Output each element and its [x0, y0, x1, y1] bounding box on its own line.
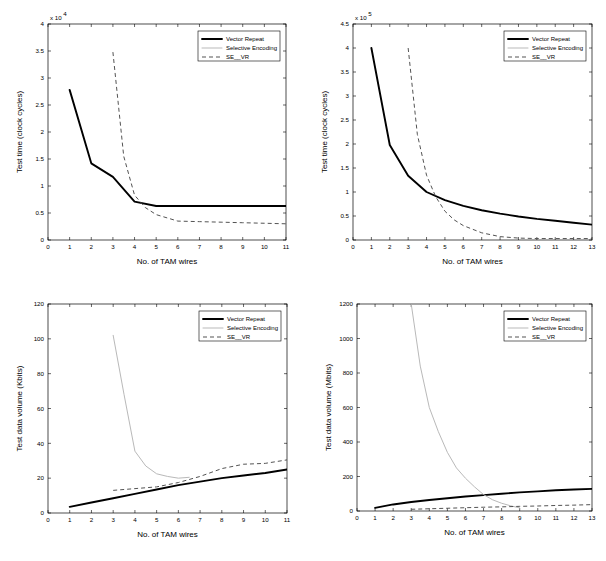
legend-label-se-vr: SE__VR [226, 54, 250, 60]
chart-svg-top-right: 01234567891011121300.511.522.533.544.5x … [303, 0, 606, 280]
y-tick-label: 0 [346, 236, 350, 243]
x-tick-label: 4 [133, 516, 137, 523]
y-tick-label: 1.5 [35, 155, 44, 162]
chart-panel-bottom-left: 01234567891011020406080100120No. of TAM … [0, 281, 303, 561]
x-tick-label: 8 [500, 514, 504, 521]
x-tick-label: 2 [391, 514, 395, 521]
x-tick-label: 6 [462, 243, 466, 250]
x-tick-label: 11 [553, 514, 560, 521]
x-tick-label: 3 [111, 243, 115, 250]
x-tick-label: 7 [198, 516, 202, 523]
y-tick-label: 4 [346, 44, 350, 51]
legend: Vector RepeatSelective EncodingSE__VR [504, 311, 586, 341]
x-axis-label: No. of TAM wires [137, 530, 198, 539]
y-tick-label: 400 [343, 438, 354, 445]
y-tick-label: 120 [34, 300, 45, 307]
chart-svg-top-left: 0123456789101100.511.522.533.54x 104No. … [0, 0, 303, 280]
y-tick-label: 4.5 [340, 20, 349, 27]
x-tick-label: 9 [242, 516, 246, 523]
x-tick-label: 12 [570, 243, 577, 250]
y-tick-label: 2.5 [340, 116, 349, 123]
x-tick-label: 4 [425, 243, 429, 250]
y-tick-label: 0.5 [35, 209, 44, 216]
x-tick-label: 2 [388, 243, 392, 250]
x-axis-label: No. of TAM wires [137, 257, 198, 266]
legend-label-selective-encoding: Selective Encoding [532, 45, 583, 51]
x-tick-label: 3 [406, 243, 410, 250]
chart-svg-bottom-left: 01234567891011020406080100120No. of TAM … [0, 281, 303, 561]
y-axis-label: Test data volume (Kbits) [15, 365, 24, 451]
x-tick-label: 5 [155, 516, 159, 523]
x-tick-label: 7 [480, 243, 484, 250]
x-tick-label: 8 [220, 516, 224, 523]
x-tick-label: 2 [90, 243, 94, 250]
y-tick-label: 600 [343, 404, 354, 411]
y-tick-label: 100 [34, 335, 45, 342]
x-axis-label: No. of TAM wires [442, 257, 503, 266]
y-tick-label: 3.5 [35, 47, 44, 54]
y-tick-label: 1 [346, 188, 350, 195]
y-tick-label: 800 [343, 369, 354, 376]
x-tick-label: 5 [446, 514, 450, 521]
y-axis-label: Test data volume (Mbits) [324, 364, 333, 451]
x-tick-label: 13 [589, 243, 596, 250]
x-tick-label: 8 [219, 243, 223, 250]
y-tick-label: 1.5 [340, 164, 349, 171]
legend: Vector RepeatSelective EncodingSE__VR [199, 311, 281, 341]
x-tick-label: 4 [133, 243, 137, 250]
x-tick-label: 0 [46, 516, 50, 523]
legend-label-se-vr: SE__VR [532, 334, 556, 340]
x-tick-label: 10 [534, 514, 541, 521]
y-tick-label: 0 [350, 507, 354, 514]
x-tick-label: 0 [46, 243, 50, 250]
y-tick-label: 3 [41, 74, 45, 81]
x-tick-label: 1 [68, 243, 72, 250]
x-tick-label: 10 [533, 243, 540, 250]
x-tick-label: 9 [518, 514, 522, 521]
x-tick-label: 0 [355, 514, 359, 521]
y-tick-label: 2 [41, 128, 45, 135]
y-tick-label: 200 [343, 473, 354, 480]
y-tick-label: 2.5 [35, 101, 44, 108]
x-tick-label: 7 [482, 514, 486, 521]
y-tick-label: 4 [41, 20, 45, 27]
x-tick-label: 3 [410, 514, 414, 521]
chart-panel-top-right: 01234567891011121300.511.522.533.544.5x … [303, 0, 606, 280]
y-tick-label: 1000 [339, 335, 353, 342]
x-tick-label: 9 [241, 243, 245, 250]
svg-text:x 10: x 10 [50, 14, 62, 21]
legend-label-se-vr: SE__VR [532, 54, 556, 60]
x-tick-label: 1 [370, 243, 374, 250]
legend-label-selective-encoding: Selective Encoding [227, 325, 278, 331]
chart-panel-bottom-right: 012345678910111213020040060080010001200N… [303, 281, 606, 561]
x-tick-label: 8 [498, 243, 502, 250]
x-tick-label: 11 [283, 243, 290, 250]
x-tick-label: 1 [373, 514, 377, 521]
legend-label-se-vr: SE__VR [227, 334, 251, 340]
x-tick-label: 10 [261, 243, 268, 250]
y-tick-label: 0 [41, 236, 45, 243]
y-tick-label: 20 [37, 474, 44, 481]
x-tick-label: 5 [443, 243, 447, 250]
y-tick-label: 0 [41, 509, 45, 516]
legend: Vector RepeatSelective EncodingSE__VR [198, 31, 280, 61]
x-tick-label: 10 [262, 516, 269, 523]
svg-text:5: 5 [368, 10, 372, 17]
x-tick-label: 4 [428, 514, 432, 521]
legend-label-selective-encoding: Selective Encoding [226, 45, 277, 51]
x-tick-label: 6 [177, 516, 181, 523]
x-axis-label: No. of TAM wires [444, 528, 505, 537]
x-tick-label: 2 [90, 516, 94, 523]
legend-label-vector-repeat: Vector Repeat [532, 316, 570, 322]
y-tick-label: 40 [37, 440, 44, 447]
y-axis-multiplier: x 104 [50, 10, 67, 21]
chart-panel-top-left: 0123456789101100.511.522.533.54x 104No. … [0, 0, 303, 280]
legend-label-vector-repeat: Vector Repeat [532, 36, 570, 42]
x-tick-label: 6 [464, 514, 468, 521]
x-tick-label: 9 [517, 243, 521, 250]
y-tick-label: 60 [37, 405, 44, 412]
x-tick-label: 1 [68, 516, 72, 523]
y-tick-label: 3 [346, 92, 350, 99]
y-tick-label: 1200 [339, 300, 353, 307]
y-tick-label: 80 [37, 370, 44, 377]
